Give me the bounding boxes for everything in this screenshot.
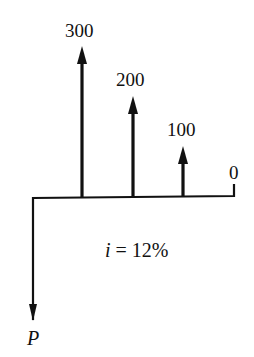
cash-flow-label-0: 0 (229, 163, 239, 182)
present-value-arrow (29, 304, 37, 321)
interest-rate-label: i = 12% (105, 240, 169, 260)
cash-flow-label-300: 300 (65, 21, 94, 40)
cash-flow-diagram (0, 0, 254, 357)
present-value-label: P (27, 328, 39, 348)
cash-flow-arrow-300 (77, 46, 87, 198)
cash-flow-label-100: 100 (167, 120, 196, 139)
cash-flow-arrow-200 (128, 96, 138, 197)
interest-variable: i (105, 239, 111, 261)
cash-flow-label-200: 200 (116, 70, 145, 89)
interest-value: = 12% (116, 239, 169, 261)
cash-flow-arrow-100 (178, 146, 188, 197)
